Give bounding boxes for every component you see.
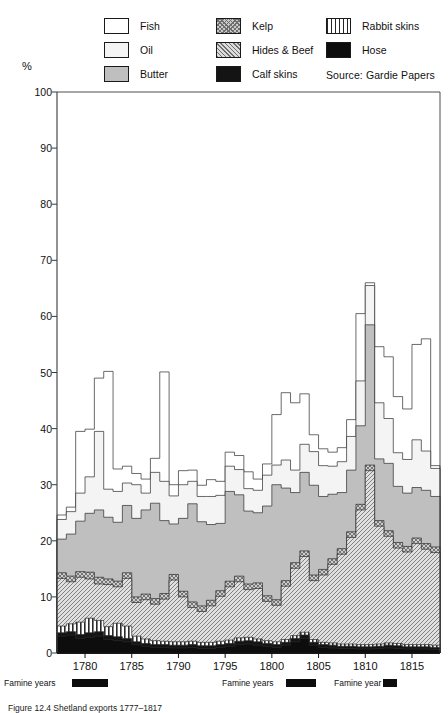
x-tick-label-1800: 1800: [260, 660, 284, 672]
stacked-area-chart: [0, 0, 448, 713]
x-tick-label-1780: 1780: [73, 660, 97, 672]
x-tick-label-1795: 1795: [213, 660, 237, 672]
famine-marker-label: Famine year: [334, 678, 381, 688]
y-tick-label-30: 30: [40, 479, 52, 491]
famine-marker-bar: [286, 679, 316, 687]
famine-year-annotations: Famine yearsFamine yearsFamine year: [0, 678, 448, 692]
chart-plot-area: [0, 0, 448, 713]
famine-marker-bar: [72, 679, 108, 687]
y-tick-label-100: 100: [34, 86, 52, 98]
x-tick-label-1805: 1805: [306, 660, 330, 672]
x-tick-label-1815: 1815: [400, 660, 424, 672]
figure-caption: Figure 12.4 Shetland exports 1777–1817: [8, 703, 440, 713]
x-tick-label-1785: 1785: [119, 660, 143, 672]
y-tick-label-10: 10: [40, 591, 52, 603]
famine-marker-label: Famine years: [4, 678, 56, 688]
y-tick-label-70: 70: [40, 254, 52, 266]
famine-marker-bar: [383, 679, 397, 687]
x-tick-label-1790: 1790: [166, 660, 190, 672]
x-tick-label-1810: 1810: [353, 660, 377, 672]
x-axis-tick-labels: 17801785179017951800180518101815: [0, 660, 448, 676]
y-tick-label-90: 90: [40, 142, 52, 154]
y-tick-label-0: 0: [46, 647, 52, 659]
y-tick-label-60: 60: [40, 310, 52, 322]
y-tick-label-50: 50: [40, 367, 52, 379]
y-axis-tick-labels: 0102030405060708090100: [18, 85, 52, 645]
famine-marker-2: Famine year: [334, 678, 397, 688]
y-tick-label-20: 20: [40, 535, 52, 547]
famine-marker-1: Famine years: [222, 678, 316, 688]
famine-marker-label: Famine years: [222, 678, 274, 688]
famine-marker-0: Famine years: [4, 678, 108, 688]
y-tick-label-80: 80: [40, 198, 52, 210]
y-tick-label-40: 40: [40, 423, 52, 435]
